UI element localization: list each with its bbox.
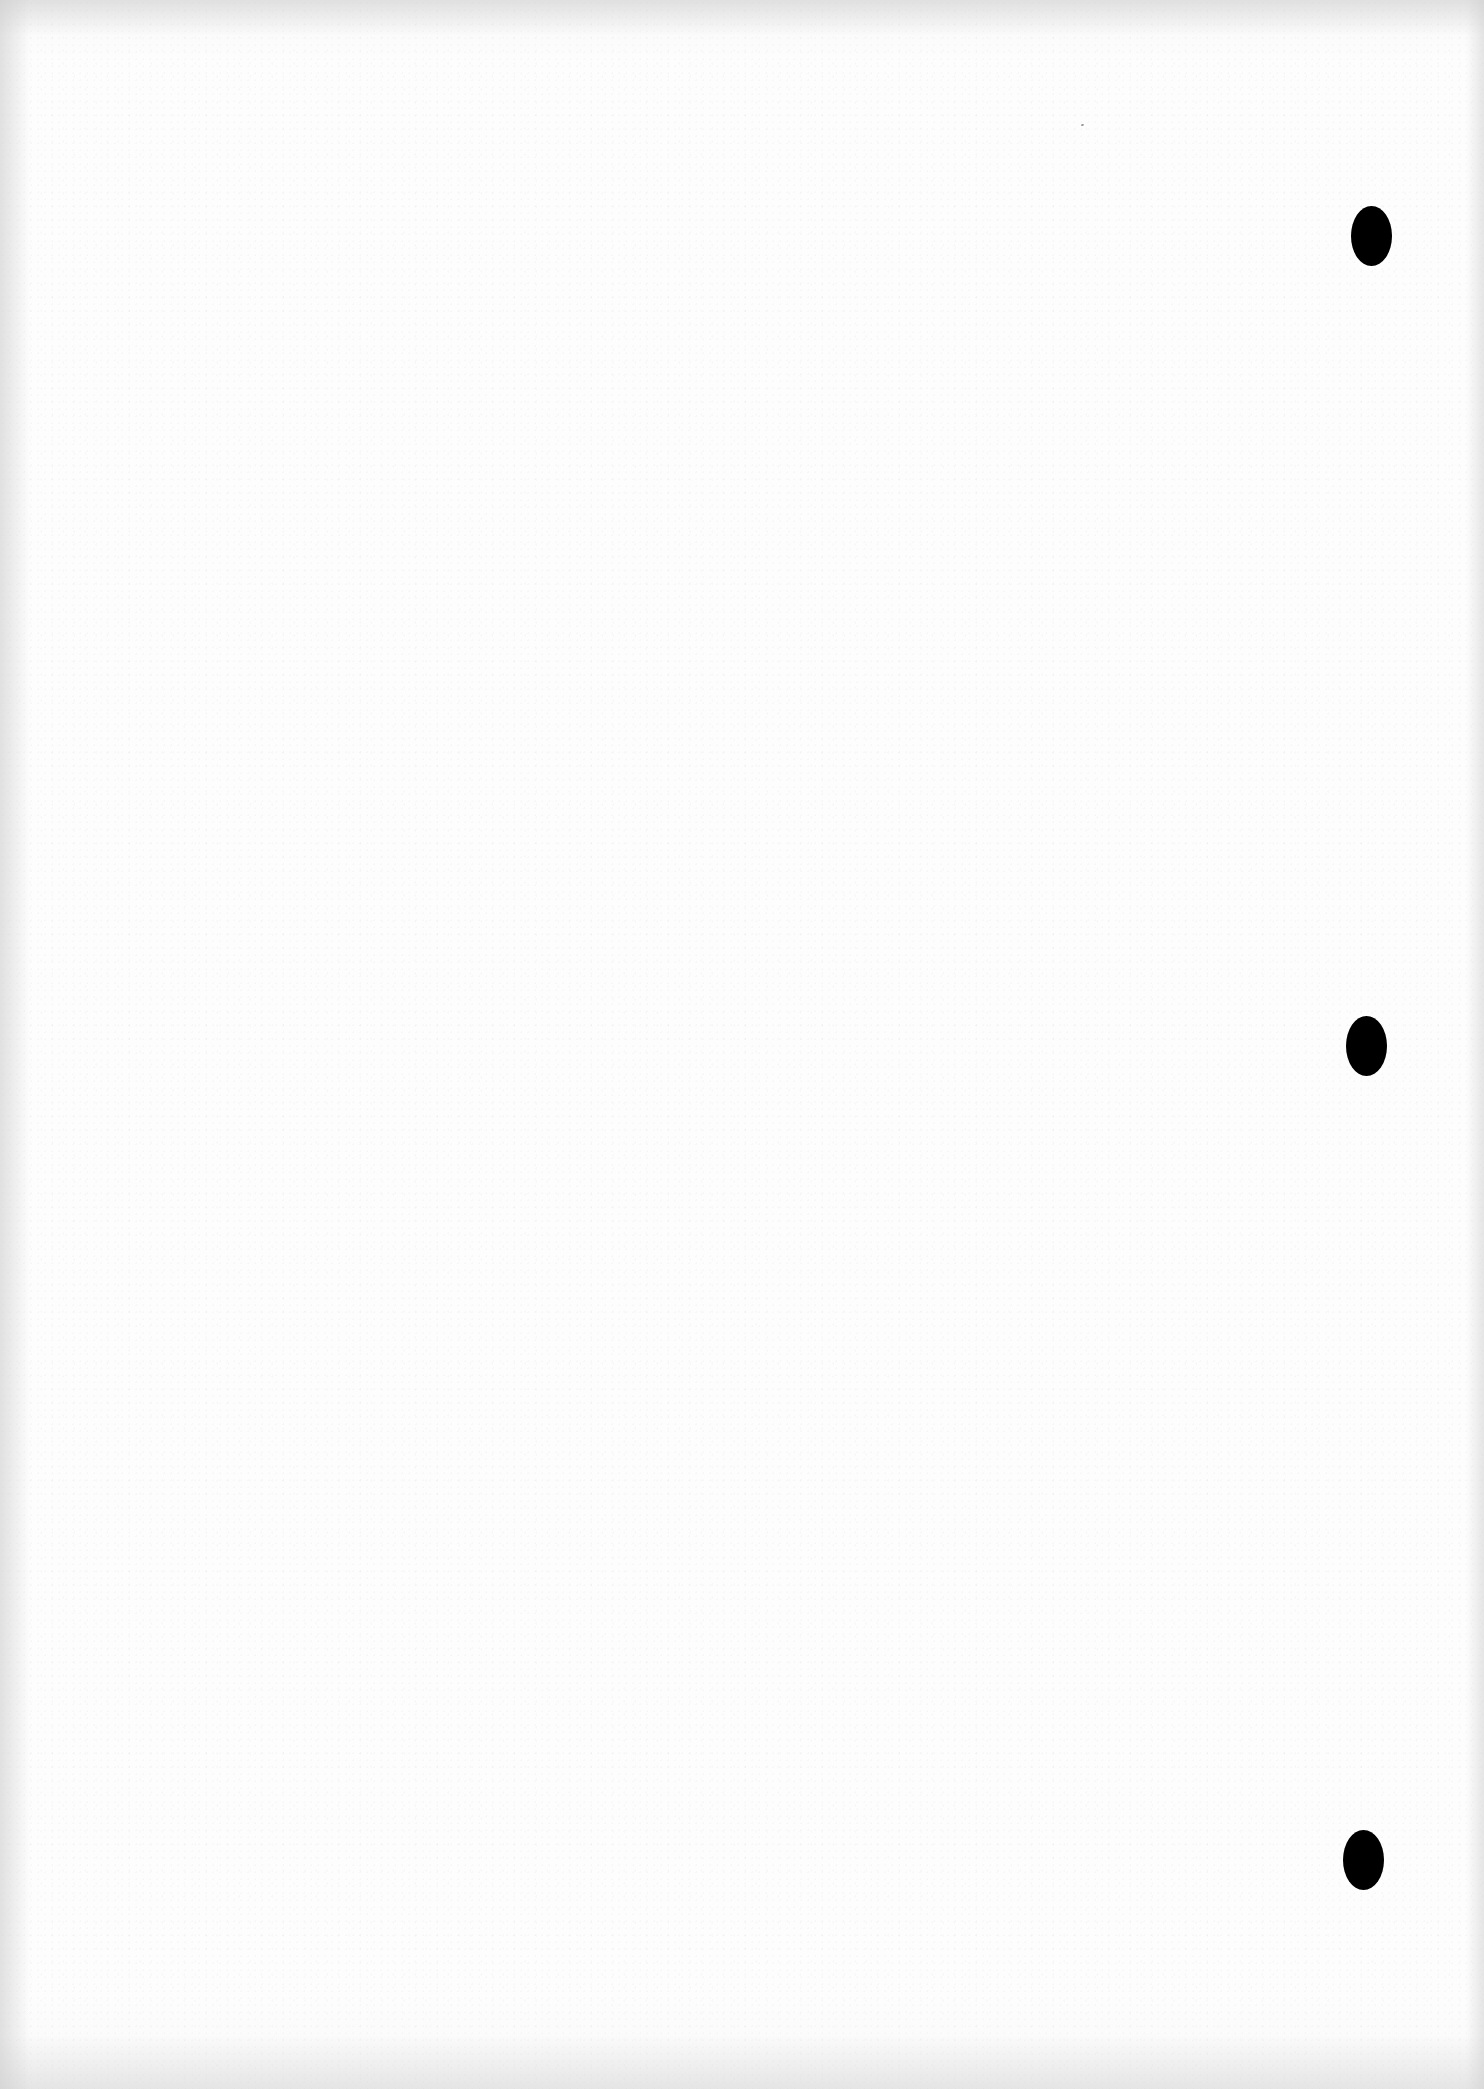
scan-edge-top [0,0,1484,60]
scan-edge-bottom [0,1999,1484,2089]
dust-speck [1081,124,1085,127]
scanned-page [0,0,1484,2089]
scan-edge-right [1466,0,1484,2089]
punch-hole-top [1351,206,1392,266]
paper-grain-texture [0,0,1484,2089]
scan-edge-left [0,0,30,2089]
punch-hole-bottom [1343,1830,1384,1890]
punch-hole-middle [1346,1016,1387,1076]
